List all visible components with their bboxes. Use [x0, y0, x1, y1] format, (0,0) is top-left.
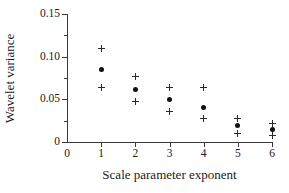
- data-point-plus: [132, 98, 139, 105]
- y-axis-tick: [62, 142, 68, 143]
- data-point-dot: [133, 87, 138, 92]
- data-point-plus: [98, 45, 105, 52]
- y-axis-tick: [62, 99, 68, 100]
- y-axis-tick: [62, 57, 68, 58]
- x-axis-title: Scale parameter exponent: [67, 168, 272, 181]
- data-point-plus: [132, 73, 139, 80]
- x-axis-tick-label: 2: [132, 148, 138, 160]
- data-point-plus: [200, 115, 207, 122]
- y-axis-title: Wavelet variance: [2, 14, 18, 142]
- x-axis-tick-label: 6: [269, 148, 275, 160]
- data-point-dot: [235, 123, 240, 128]
- y-axis-tick-label: 0.10: [40, 51, 60, 63]
- y-axis-tick-label: 0.15: [40, 8, 60, 20]
- data-point-dot: [167, 97, 172, 102]
- y-axis-minor-tick: [64, 121, 68, 122]
- x-axis-tick-label: 5: [235, 148, 241, 160]
- data-point-plus: [166, 84, 173, 91]
- y-axis-title-text: Wavelet variance: [4, 33, 17, 123]
- x-axis-tick-label: 4: [201, 148, 207, 160]
- x-axis-tick-label: 3: [167, 148, 173, 160]
- x-axis-tick-label: 1: [98, 148, 104, 160]
- y-axis-tick-label: 0.05: [40, 94, 60, 106]
- data-point-plus: [234, 130, 241, 137]
- x-axis-tick-label: 0: [64, 148, 70, 160]
- data-point-plus: [166, 108, 173, 115]
- data-point-plus: [200, 84, 207, 91]
- y-axis-minor-tick: [64, 78, 68, 79]
- data-point-plus: [98, 84, 105, 91]
- data-point-dot: [99, 67, 104, 72]
- y-axis-tick-label: 0: [54, 136, 60, 148]
- plot-area: 00.050.100.15 0123456: [67, 14, 272, 142]
- wavelet-variance-scatter-chart: Wavelet variance 00.050.100.15 0123456 S…: [0, 0, 289, 193]
- y-axis-minor-tick: [64, 35, 68, 36]
- data-point-plus: [234, 115, 241, 122]
- data-point-plus: [269, 120, 276, 127]
- y-axis-tick: [62, 14, 68, 15]
- data-point-plus: [269, 132, 276, 139]
- data-point-dot: [201, 105, 206, 110]
